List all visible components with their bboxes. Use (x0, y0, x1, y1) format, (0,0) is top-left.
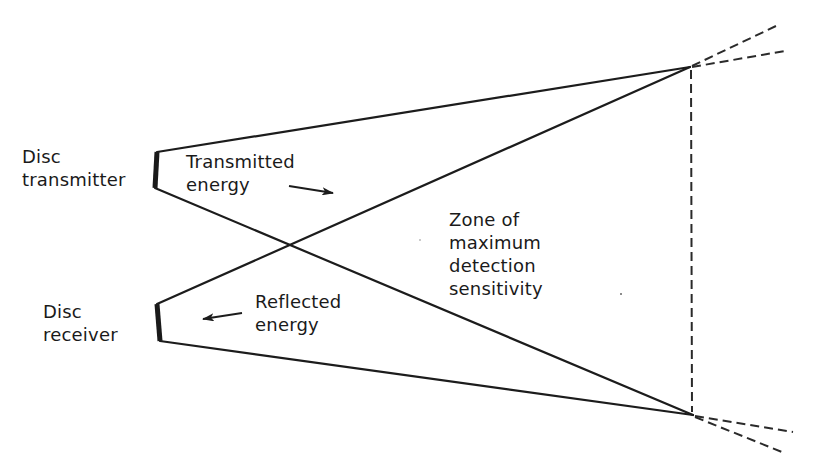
reflected-energy-line1: Reflected (255, 290, 341, 313)
transmitted-beam-upper-edge (157, 67, 690, 152)
speck (419, 239, 421, 241)
zone-label: Zone of maximum detection sensitivity (449, 208, 543, 300)
zone-label-line1: Zone of (449, 208, 543, 231)
reflected-energy-label: Reflected energy (255, 290, 341, 336)
speck (620, 293, 622, 295)
transmitted-energy-line2: energy (186, 173, 295, 196)
reflected-arrow-icon (203, 313, 242, 319)
lower-beam-extension-1 (695, 416, 793, 432)
transmitted-energy-line1: Transmitted (186, 150, 295, 173)
transmitter-label-line2: transmitter (22, 168, 126, 191)
transmitted-beam-lower-edge (155, 188, 693, 415)
receiver-disc (157, 304, 160, 341)
receiver-label-line2: receiver (43, 323, 118, 346)
transmitted-arrow-icon (289, 186, 333, 193)
receiver-label: Disc receiver (43, 300, 118, 346)
zone-label-line4: sensitivity (449, 277, 543, 300)
transmitted-energy-label: Transmitted energy (186, 150, 295, 196)
reflected-energy-line2: energy (255, 313, 341, 336)
reflected-beam-lower-edge (160, 341, 693, 415)
detection-zone-diagram (0, 0, 817, 476)
zone-label-line3: detection (449, 254, 543, 277)
receiver-label-line1: Disc (43, 300, 118, 323)
zone-label-line2: maximum (449, 231, 543, 254)
zone-boundary-dashed-line (691, 70, 692, 412)
transmitter-disc (155, 152, 157, 188)
transmitter-label: Disc transmitter (22, 145, 126, 191)
transmitter-label-line1: Disc (22, 145, 126, 168)
